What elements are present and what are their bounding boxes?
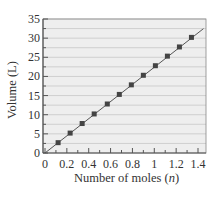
x-tick-label: 0.6 bbox=[103, 157, 118, 171]
data-point bbox=[141, 73, 146, 78]
y-axis-title: Volume (L) bbox=[5, 61, 19, 119]
y-tick-label: 5 bbox=[34, 127, 40, 141]
data-point bbox=[117, 92, 122, 97]
data-point bbox=[105, 101, 110, 106]
y-tick-label: 20 bbox=[28, 69, 40, 83]
data-point bbox=[153, 63, 158, 68]
x-tick-label: 0.2 bbox=[59, 157, 74, 171]
chart: 05101520253035 00.20.40.60.811.21.4 Volu… bbox=[0, 0, 219, 204]
data-point bbox=[68, 131, 73, 136]
y-tick-label: 35 bbox=[28, 12, 40, 26]
data-point bbox=[177, 44, 182, 49]
x-tick-label: 0.4 bbox=[81, 157, 96, 171]
x-axis-title-suffix: ) bbox=[175, 171, 179, 185]
data-point bbox=[56, 140, 61, 145]
x-tick-label: 1.4 bbox=[191, 157, 206, 171]
x-tick-label: 0.8 bbox=[125, 157, 140, 171]
data-point bbox=[129, 82, 134, 87]
x-tick-label: 1 bbox=[151, 157, 157, 171]
data-point bbox=[165, 54, 170, 59]
data-point bbox=[189, 35, 194, 40]
y-tick-label: 15 bbox=[28, 89, 40, 103]
data-point bbox=[92, 111, 97, 116]
y-tick-label: 10 bbox=[28, 108, 40, 122]
x-tick-label: 1.2 bbox=[169, 157, 184, 171]
x-axis-title-prefix: Number of moles ( bbox=[74, 171, 169, 185]
x-tick-label: 0 bbox=[42, 157, 48, 171]
data-point bbox=[80, 121, 85, 126]
y-tick-label: 30 bbox=[28, 31, 40, 45]
y-tick-label: 0 bbox=[34, 146, 40, 160]
x-axis-title: Number of moles (n) bbox=[74, 171, 179, 185]
y-tick-label: 25 bbox=[28, 50, 40, 64]
